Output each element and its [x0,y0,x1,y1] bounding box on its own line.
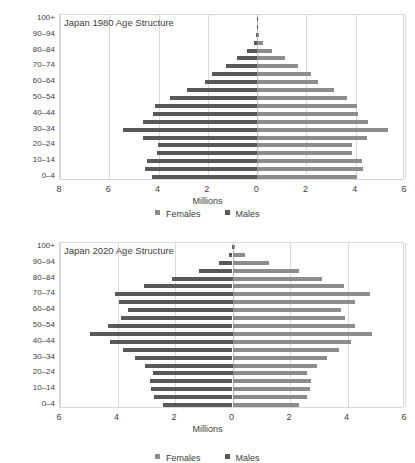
bar-males [257,25,258,29]
bar-males [229,253,232,257]
bar-males [199,269,233,273]
bar-males [144,284,233,288]
bar-males [123,348,233,352]
gridline [405,15,406,179]
bar-females [233,277,323,281]
bar-males [119,300,233,304]
bar-females [233,308,342,312]
y-axis-labels-1980: 0–410–1420–2430–3440–4450–5460–6470–7480… [21,14,55,180]
bar-females [257,33,259,37]
x-axis-tick-label: 6 [44,413,74,422]
legend-label-females: Females [166,209,201,219]
bar-females [257,159,362,163]
y-axis-tick-label: 60–64 [33,77,55,85]
chart-title-2020: Japan 2020 Age Structure [64,245,174,256]
bar-females [257,175,357,179]
bar-females [233,379,311,383]
bar-females [257,112,358,116]
bar-females [233,316,346,320]
bar-females [257,96,347,100]
y-axis-tick-label: 90–94 [33,30,55,38]
y-axis-tick-label: 20–24 [33,140,55,148]
y-axis-tick-label: 30–34 [33,125,55,133]
legend-1980: Females Males [0,208,415,219]
population-pyramid-2020: 0–410–1420–2430–3440–4450–5460–6470–7480… [0,228,415,456]
y-axis-tick-label: 100+ [37,242,55,250]
legend-label-males: Males [236,453,260,463]
bar-males [154,395,232,399]
bar-males [158,143,257,147]
bar-males [128,308,233,312]
y-axis-labels-2020: 0–410–1420–2430–3440–4450–5460–6470–7480… [21,242,55,408]
legend-label-males: Males [236,209,260,219]
bar-males [219,261,233,265]
x-axis-title-1980: Millions [0,196,415,206]
bar-males [135,356,232,360]
bar-males [115,292,233,296]
bar-females [233,403,299,407]
x-axis-tick-label: 2 [159,413,189,422]
x-axis-tick-label: 4 [102,413,132,422]
population-pyramid-1980: 0–410–1420–2430–3440–4450–5460–6470–7480… [0,0,415,228]
bar-females [233,300,355,304]
legend-swatch-females-icon [155,210,160,215]
bar-females [257,88,333,92]
plot-area-1980 [59,14,404,180]
x-axis-tick-label: 0 [217,413,247,422]
legend-swatch-males-icon [225,210,230,215]
bar-males [153,371,232,375]
y-axis-tick-label: 30–34 [33,353,55,361]
y-axis-tick-label: 0–4 [42,172,55,180]
x-axis-tick-label: 2 [290,185,320,194]
bar-males [153,112,257,116]
bar-males [143,120,258,124]
bar-males [151,387,232,391]
bar-females [257,143,352,147]
x-axis-tick-label: 4 [340,185,370,194]
y-axis-tick-label: 40–44 [33,109,55,117]
gridline [405,243,406,407]
bar-females [257,128,388,132]
gridline [356,15,357,179]
bar-males [170,96,257,100]
y-axis-tick-label: 70–74 [33,289,55,297]
legend-item-females-1980[interactable]: Females [155,208,200,219]
bar-females [233,364,318,368]
legend-item-males-1980[interactable]: Males [225,208,260,219]
bar-males [256,33,257,37]
bar-females [233,340,351,344]
bar-females [233,261,270,265]
bar-males [121,316,233,320]
legend-item-females-2020[interactable]: Females [155,452,200,463]
bar-females [233,253,245,257]
gridline [109,15,110,179]
bar-females [233,387,310,391]
y-axis-tick-label: 10–14 [33,156,55,164]
bar-females [233,269,300,273]
x-axis-tick-label: 8 [44,185,74,194]
bar-males [212,72,257,76]
bar-females [233,292,370,296]
legend-label-females: Females [166,453,201,463]
legend-swatch-females-icon [155,454,160,459]
y-axis-tick-label: 20–24 [33,368,55,376]
x-axis-tick-label: 6 [389,413,415,422]
bar-females [233,324,355,328]
x-axis-tick-label: 4 [143,185,173,194]
bar-males [172,277,232,281]
bar-females [257,49,272,53]
x-axis-tick-label: 0 [241,185,271,194]
legend-2020: Females Males [0,452,415,463]
bar-females [233,348,340,352]
bar-females [257,104,357,108]
x-axis-tick-label: 2 [192,185,222,194]
bar-males [152,175,257,179]
y-axis-tick-label: 40–44 [33,337,55,345]
bar-females [257,167,363,171]
legend-item-males-2020[interactable]: Males [225,452,260,463]
y-axis-tick-label: 90–94 [33,258,55,266]
bar-females [257,56,285,60]
bar-females [233,356,327,360]
bar-females [257,80,317,84]
bar-males [205,80,257,84]
